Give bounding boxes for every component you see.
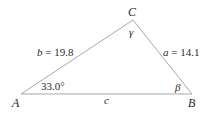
side-b-label: b = 19.8 (37, 46, 74, 58)
side-a-label: a = 14.1 (163, 46, 199, 58)
side-c-label: c (104, 94, 109, 106)
angle-c-label: γ (129, 26, 134, 38)
angle-a-label: 33.0° (41, 80, 65, 92)
side-a-eq: = (169, 46, 181, 58)
vertex-label-b: B (188, 96, 196, 110)
vertex-label-a: A (11, 96, 20, 110)
side-b-value: 19.8 (54, 46, 74, 58)
vertex-label-c: C (128, 5, 137, 19)
side-a-value: 14.1 (180, 46, 199, 58)
side-b-eq: = (43, 46, 55, 58)
angle-b-label: β (174, 81, 181, 93)
triangle-diagram: A B C b = 19.8 a = 14.1 c 33.0° β γ (0, 0, 212, 114)
